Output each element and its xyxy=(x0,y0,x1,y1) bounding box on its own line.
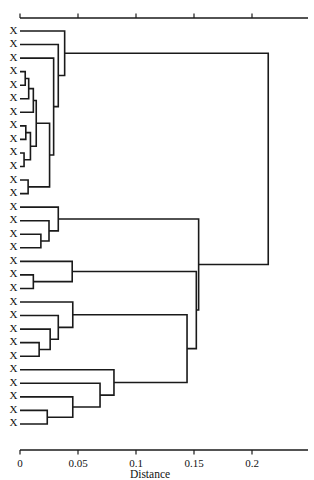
dendrogram-link xyxy=(28,123,49,187)
dendrogram-link xyxy=(20,207,58,231)
dendrogram-link xyxy=(20,126,26,140)
leaf-label: X xyxy=(10,213,18,225)
dendrogram-link xyxy=(73,315,187,383)
leaf-label: X xyxy=(10,173,18,185)
top-axis-ticks xyxy=(20,14,252,19)
leaf-label: X xyxy=(10,362,18,374)
dendrogram-link xyxy=(20,89,33,113)
leaf-label: X xyxy=(10,267,18,279)
dendrogram-links xyxy=(20,31,268,424)
leaf-label: X xyxy=(10,308,18,320)
axis-tick-label: 0.05 xyxy=(68,457,88,469)
dendrogram-link xyxy=(20,221,49,241)
dendrogram-link xyxy=(72,272,196,349)
leaf-label: X xyxy=(10,186,18,198)
leaf-label: X xyxy=(10,349,18,361)
leaf-label: X xyxy=(10,91,18,103)
dendrogram-link xyxy=(20,234,41,248)
leaf-label: X xyxy=(10,376,18,388)
dendrogram-link xyxy=(20,72,25,86)
leaf-label: X xyxy=(10,159,18,171)
axis-tick-label: 0.2 xyxy=(245,457,259,469)
leaf-labels: XXXXXXXXXXXXXXXXXXXXXXXXXXXXXX xyxy=(10,24,18,429)
leaf-label: X xyxy=(10,322,18,334)
leaf-label: X xyxy=(10,335,18,347)
leaf-label: X xyxy=(10,37,18,49)
dendrogram-link xyxy=(20,343,39,357)
leaf-label: X xyxy=(10,403,18,415)
dendrogram-figure: XXXXXXXXXXXXXXXXXXXXXXXXXXXXXX 00.050.10… xyxy=(0,0,314,480)
dendrogram-link xyxy=(20,383,100,407)
leaf-label: X xyxy=(10,389,18,401)
dendrogram-link xyxy=(65,53,269,264)
dendrogram-link xyxy=(20,410,47,424)
axis-tick-label: 0.15 xyxy=(184,457,204,469)
top-axis xyxy=(20,14,308,19)
x-axis-title: Distance xyxy=(130,468,170,480)
leaf-label: X xyxy=(10,240,18,252)
leaf-label: X xyxy=(10,200,18,212)
bottom-axis: 00.050.10.150.2 Distance xyxy=(17,450,308,480)
leaf-label: X xyxy=(10,254,18,266)
leaf-label: X xyxy=(10,145,18,157)
leaf-label: X xyxy=(10,51,18,63)
dendrogram-link xyxy=(20,397,73,417)
leaf-label: X xyxy=(10,24,18,36)
dendrogram-link xyxy=(20,329,50,349)
dendrogram-link xyxy=(20,261,72,281)
axis-tick-label: 0 xyxy=(17,457,23,469)
leaf-label: X xyxy=(10,132,18,144)
bottom-axis-ticks: 00.050.10.150.2 xyxy=(17,450,259,469)
dendrogram-link xyxy=(20,153,24,167)
dendrogram-link xyxy=(20,316,58,340)
leaf-label: X xyxy=(10,281,18,293)
dendrogram-link xyxy=(20,275,33,289)
dendrogram-link xyxy=(20,78,29,98)
leaf-label: X xyxy=(10,295,18,307)
leaf-label: X xyxy=(10,118,18,130)
dendrogram-link xyxy=(58,219,198,310)
leaf-label: X xyxy=(10,227,18,239)
dendrogram-link xyxy=(20,302,73,327)
leaf-label: X xyxy=(10,416,18,428)
dendrogram-link xyxy=(20,180,28,194)
leaf-label: X xyxy=(10,78,18,90)
dendrogram-plot: XXXXXXXXXXXXXXXXXXXXXXXXXXXXXX 00.050.10… xyxy=(0,0,314,480)
leaf-label: X xyxy=(10,64,18,76)
leaf-label: X xyxy=(10,105,18,117)
